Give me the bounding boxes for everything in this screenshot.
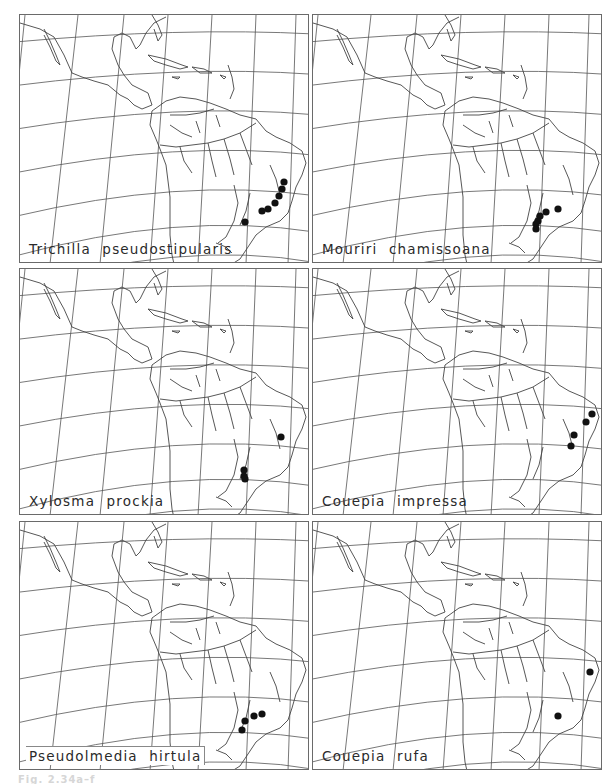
coastline [313,269,599,515]
species-label: Couepia impressa [319,492,471,510]
occurrence-dot [280,178,287,185]
occurrence-dot [532,225,539,232]
occurrence-dot [542,208,549,215]
occurrence-dot [241,475,248,482]
map-panel-b: Mouriri chamissoana [312,14,602,263]
occurrence-dot [567,442,574,449]
species-label: Mouriri chamissoana [319,240,494,258]
map-panel-d: Couepia impressa [312,268,602,515]
map-panel-e: Pseudolmedia hirtula [19,521,309,770]
graticule [313,15,602,263]
map-svg [313,522,602,770]
occurrence-dot [250,712,257,719]
occurrence-dot [582,418,589,425]
occurrence-dots [567,410,595,449]
figure-caption: Fig. 2.34a–f [18,775,95,784]
map-panel-a: Trichilla pseudostipularis [19,14,309,263]
species-label: Pseudolmedia hirtula [26,746,205,765]
species-label: Trichilla pseudostipularis [26,240,235,258]
map-svg [20,269,309,515]
coastline [313,15,599,263]
occurrence-dot [278,185,285,192]
species-label: Couepia rufa [319,747,432,765]
graticule [20,15,309,263]
coastline [20,522,306,770]
species-label: Xylosma prockia [26,492,167,510]
occurrence-dot [241,717,248,724]
coastline [20,269,306,515]
occurrence-dot [258,710,265,717]
map-svg [313,269,602,515]
occurrence-dots [238,710,265,733]
occurrence-dot [271,199,278,206]
occurrence-dot [277,433,284,440]
graticule [20,269,309,515]
coastline [20,15,306,263]
occurrence-dot [554,205,561,212]
occurrence-dot [586,668,593,675]
occurrence-dots [554,668,593,719]
map-svg [313,15,602,263]
occurrence-dot [258,207,265,214]
graticule [20,522,309,770]
graticule [313,269,602,515]
occurrence-dot [275,192,282,199]
graticule [313,522,602,770]
occurrence-dot [241,218,248,225]
occurrence-dot [588,410,595,417]
map-panel-c: Xylosma prockia [19,268,309,515]
map-svg [20,15,309,263]
occurrence-dot [238,726,245,733]
map-svg [20,522,309,770]
figure-caption-text: Fig. 2.34a–f [18,775,95,784]
occurrence-dot [554,712,561,719]
occurrence-dot [570,431,577,438]
map-panel-f: Couepia rufa [312,521,602,770]
coastline [313,522,599,770]
